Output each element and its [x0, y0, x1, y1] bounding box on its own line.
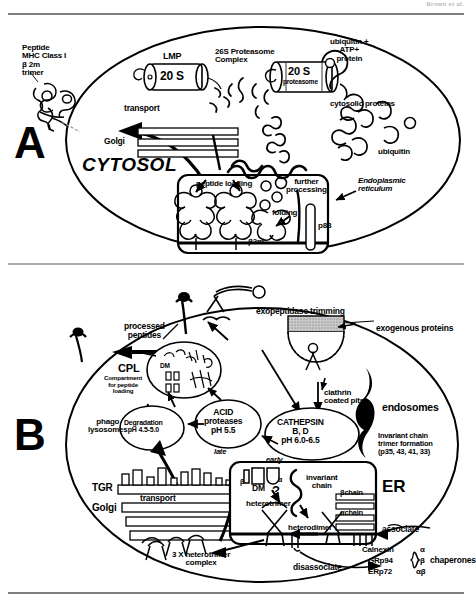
associate-label: associate: [382, 525, 419, 534]
lmp-label: LMP: [163, 52, 181, 61]
cpl-dm-label: DM: [160, 363, 170, 370]
chaperone-brace-1: [414, 552, 419, 568]
invariant-chain-label: invariant chain: [306, 474, 338, 491]
dm-question-mark: ?: [272, 484, 280, 498]
tgr-label: TGR: [92, 483, 113, 494]
degradation-label: Degradation pH 4.5-5.0: [124, 419, 163, 434]
chaperone-name-erp72: ERp72: [368, 568, 392, 576]
disassociate-label: disassociate: [293, 563, 342, 572]
cpl-abbrev-label: CPL: [118, 363, 139, 375]
to-cpl-arrow-2: [208, 388, 221, 400]
golgi-stack-a: [138, 128, 238, 157]
early-label: early: [266, 456, 283, 464]
three-x-heterotrimer-complex-label: 3 X heterotrimer complex: [172, 551, 230, 568]
transport-label-b: transport: [140, 494, 176, 503]
ubiquitin-circle-a: [405, 118, 416, 129]
export-to-surface-arrow: [208, 322, 228, 340]
cpl-full-label: Compartment for peptide loading: [104, 375, 142, 395]
endosome-brace: [356, 368, 375, 458]
cytosolic-proteins-label: cytosolic proteins: [330, 100, 395, 108]
dm-label: DM: [252, 484, 265, 493]
chaperone-subunit-alphabeta: αβ: [416, 568, 425, 576]
processed-peptides-label: processed peptides: [124, 322, 165, 340]
cathepsin-label: CATHEPSIN B, D pH 6.0-6.5: [277, 418, 324, 445]
chaperone-subunit-beta: β: [420, 557, 425, 565]
er-pointer-a: [336, 191, 356, 200]
panel-b-letter: B: [14, 410, 46, 460]
surface-mhcII-left: [176, 292, 192, 334]
tgr-compartment: [118, 468, 236, 494]
peptide-mhc-class-i-trimer-label: Peptide MHC Class I β 2m trimer: [22, 44, 66, 78]
panel-a-letter: A: [14, 118, 46, 168]
chaperone-name-grp94: GRp94: [368, 557, 393, 565]
surface-mhcII-far-left: [70, 328, 86, 363]
golgi-label-b: Golgi: [92, 503, 117, 514]
endosomes-label: endosomes: [382, 402, 439, 413]
er-label-b: ER: [382, 478, 405, 496]
proteasome-core-sublabel: proteasome: [283, 79, 318, 86]
transport-label-a: transport: [124, 104, 160, 113]
endoplasmic-reticulum-label: Endoplasmic reticulum: [358, 177, 406, 194]
b2m-label-a: β2m: [248, 238, 264, 246]
peptide-loading-label-a: peptide loading: [196, 180, 252, 188]
folding-label: folding: [272, 209, 297, 217]
heterodimer-label: heterodimer: [288, 524, 332, 532]
late-label: late: [214, 448, 226, 456]
phago-lysosomes-label: phago lysosomes: [88, 418, 128, 435]
ubiquitin-atp-protein-label: ubiquitin + ATP+ protein: [330, 38, 368, 63]
beta-chain-label: βchain: [340, 489, 363, 497]
internalize-arrow-2: [262, 350, 300, 412]
chaperone-name-calnexin: Calnexin: [362, 546, 394, 554]
cytosol-label: CYTOSOL: [82, 155, 177, 175]
ubiquitin-label-a: ubiquitin: [378, 148, 410, 156]
alpha-chain-label: αchain: [340, 509, 363, 517]
clathrin-coated-pit-glyph: [288, 316, 344, 370]
exopeptidase-trimming-label: exopeptidase trimming: [256, 307, 345, 316]
chaperone-brace-2: [411, 552, 414, 568]
p88-label: p88: [318, 222, 331, 230]
acid-proteases-label: ACID proteases pH 5.5: [204, 408, 242, 435]
lmp-core-label: 20 S: [160, 70, 184, 83]
26s-proteasome-complex-label: 26S Proteasome Complex: [215, 48, 274, 65]
proteasome-core-label: 20 S: [288, 66, 310, 78]
exogenous-proteins-label: exogenous proteins: [376, 324, 453, 333]
chaperone-subunit-alpha: α: [420, 546, 425, 554]
dm-glyph: [244, 468, 279, 484]
golgi-label-a: Golgi: [104, 137, 125, 146]
clathrin-coated-pits-label: clathrin coated pits: [324, 389, 364, 406]
further-processing-label: further processing: [286, 178, 327, 195]
dm-beta-label: β: [240, 478, 244, 485]
invariant-chain-trimer-formation-label: Invariant chain trimer formation (p35, 4…: [378, 432, 433, 456]
chaperones-label: chaperones: [430, 556, 476, 565]
heterotrimer-label: heterotrimer: [246, 500, 291, 508]
